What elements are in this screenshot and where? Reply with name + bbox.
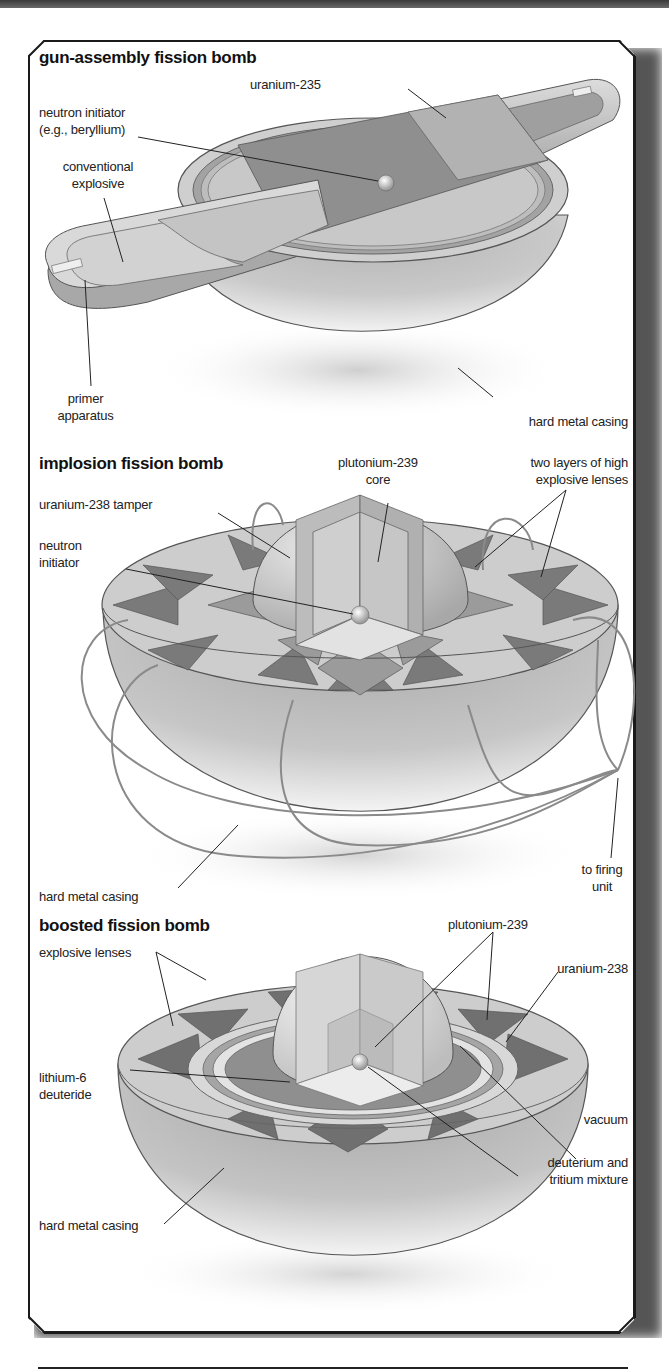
section-boosted: boosted fission bomb plutonium-239 explo… bbox=[28, 914, 636, 1330]
label-line: core bbox=[308, 471, 448, 488]
label-plutonium-239: plutonium-239 bbox=[448, 916, 528, 933]
label-line: neutron bbox=[39, 537, 82, 554]
label-explosive-lenses: explosive lenses bbox=[39, 944, 131, 961]
label-uranium-238: uranium-238 bbox=[498, 960, 628, 977]
label-line: explosive lenses bbox=[468, 471, 628, 488]
section-implosion: implosion fission bomb plutonium-239 cor… bbox=[28, 440, 636, 910]
label-conventional-explosive: conventional explosive bbox=[38, 158, 158, 192]
label-line: tritium mixture bbox=[478, 1171, 628, 1188]
label-line: plutonium-239 bbox=[308, 454, 448, 471]
section-title: implosion fission bomb bbox=[39, 454, 223, 474]
label-line: two layers of high bbox=[468, 454, 628, 471]
top-edge-bar bbox=[0, 0, 669, 8]
label-line: initiator bbox=[39, 554, 82, 571]
label-line: deuteride bbox=[39, 1086, 91, 1103]
gun-assembly-diagram bbox=[28, 40, 636, 430]
label-hard-metal-casing: hard metal casing bbox=[39, 1217, 138, 1234]
section-gun-assembly: gun-assembly fission bomb uranium-235 ne… bbox=[28, 40, 636, 430]
label-neutron-initiator: neutron initiator bbox=[39, 104, 125, 121]
label-explosive-lenses: two layers of high explosive lenses bbox=[468, 454, 628, 488]
label-line: primer bbox=[38, 390, 133, 407]
label-lithium-6-deuteride: lithium-6 deuteride bbox=[39, 1069, 91, 1103]
label-uranium-238-tamper: uranium-238 tamper bbox=[39, 496, 152, 513]
label-uranium-235: uranium-235 bbox=[250, 76, 321, 93]
label-neutron-initiator: neutron initiator bbox=[39, 537, 82, 571]
label-vacuum: vacuum bbox=[528, 1111, 628, 1128]
label-line: explosive bbox=[38, 175, 158, 192]
label-line: apparatus bbox=[38, 407, 133, 424]
label-primer-apparatus: primer apparatus bbox=[38, 390, 133, 424]
bottom-rule bbox=[38, 1367, 628, 1369]
label-line: lithium-6 bbox=[39, 1069, 91, 1086]
label-line: unit bbox=[568, 878, 636, 895]
label-hard-metal-casing: hard metal casing bbox=[39, 888, 138, 905]
label-hard-metal-casing: hard metal casing bbox=[468, 413, 628, 430]
label-line: deuterium and bbox=[478, 1154, 628, 1171]
section-title: gun-assembly fission bomb bbox=[39, 48, 256, 68]
label-to-firing-unit: to firing unit bbox=[568, 861, 636, 895]
label-deuterium-tritium: deuterium and tritium mixture bbox=[478, 1154, 628, 1188]
label-neutron-initiator-note: (e.g., beryllium) bbox=[39, 121, 125, 138]
section-title: boosted fission bomb bbox=[39, 916, 210, 936]
label-line: conventional bbox=[38, 158, 158, 175]
label-line: to firing bbox=[568, 861, 636, 878]
label-plutonium-core: plutonium-239 core bbox=[308, 454, 448, 488]
